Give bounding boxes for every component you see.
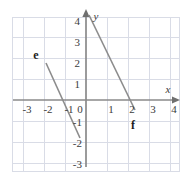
x-tick-label-4: 4 [171,103,177,115]
x-tick-label-3: 3 [150,103,156,115]
y-tick-label--3: -3 [73,158,83,170]
graph-canvas: -3 -2 -1 1 2 3 4 0 4 3 2 1 -1 -2 -3 x y … [0,0,189,180]
x-tick-label-2: 2 [129,103,135,115]
y-tick-label--1: -1 [73,116,82,128]
y-axis-name: y [93,10,99,22]
x-tick-label--3: -3 [22,103,32,115]
coordinate-graph-figure: -3 -2 -1 1 2 3 4 0 4 3 2 1 -1 -2 -3 x y … [0,0,189,180]
y-tick-label-2: 2 [75,57,81,69]
x-tick-label-1: 1 [108,103,114,115]
x-axis-name: x [165,83,171,95]
origin-label: 0 [77,103,83,115]
line-label-e: e [33,48,39,62]
x-tick-label--1: -1 [64,103,73,115]
y-tick-label-4: 4 [75,15,81,27]
y-tick-label-1: 1 [75,78,81,90]
y-tick-label-3: 3 [75,36,81,48]
x-tick-label--2: -2 [43,103,52,115]
y-tick-label--2: -2 [73,137,82,149]
